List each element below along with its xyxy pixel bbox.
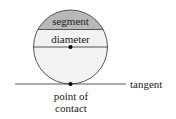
segment-label: segment [52, 15, 89, 27]
contact-label: contact [55, 102, 87, 114]
contact-point [69, 82, 73, 86]
circle-diagram: segment diameter tangent point of contac… [0, 0, 176, 119]
center-point [69, 45, 73, 49]
tangent-label: tangent [130, 78, 162, 90]
diameter-label: diameter [51, 33, 90, 45]
point-of-label: point of [54, 90, 89, 102]
